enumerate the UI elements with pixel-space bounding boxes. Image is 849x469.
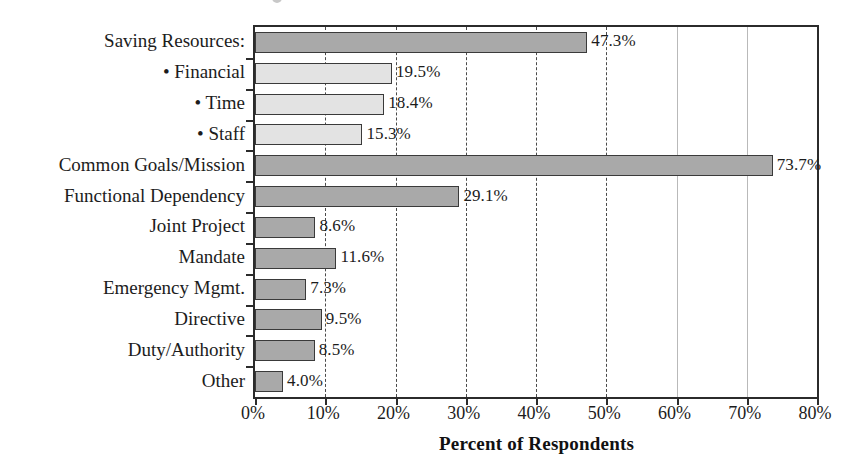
y-tick-3 xyxy=(246,120,255,122)
x-tick-label-30: 30% xyxy=(447,404,480,422)
bar-value-label: 9.5% xyxy=(326,310,362,327)
x-tick-label-40: 40% xyxy=(518,404,551,422)
category-label: • Staff xyxy=(197,124,245,143)
x-tick-label-80: 80% xyxy=(799,404,832,422)
category-label: Joint Project xyxy=(149,216,245,235)
category-label: Saving Resources: xyxy=(104,31,245,50)
bar xyxy=(255,248,336,269)
category-label: Common Goals/Mission xyxy=(59,155,245,174)
x-axis-title-text: Percent of Respondents xyxy=(439,434,634,453)
bar xyxy=(255,124,362,145)
bar-value-label: 11.6% xyxy=(340,248,384,265)
category-label: • Financial xyxy=(163,62,245,81)
bar xyxy=(255,309,322,330)
category-label: Directive xyxy=(174,309,245,328)
x-tick-label-0: 0% xyxy=(241,404,265,422)
y-tick-5 xyxy=(246,181,255,183)
bar-value-label: 19.5% xyxy=(396,63,440,80)
y-tick-4 xyxy=(246,150,255,152)
x-tick-label-60: 60% xyxy=(658,404,691,422)
category-label: Other xyxy=(202,371,245,390)
bar-value-label: 7.3% xyxy=(310,279,346,296)
gridline-60 xyxy=(677,27,678,397)
gridline-20 xyxy=(396,27,397,397)
y-tick-9 xyxy=(246,305,255,307)
bar-value-label: 8.6% xyxy=(319,217,355,234)
category-label: Duty/Authority xyxy=(128,340,245,359)
x-tick-label-70: 70% xyxy=(728,404,761,422)
bar-value-label: 47.3% xyxy=(591,32,635,49)
bar xyxy=(255,94,384,115)
x-tick-label-10: 10% xyxy=(307,404,340,422)
category-label: • Time xyxy=(195,93,246,112)
y-tick-11 xyxy=(246,366,255,368)
gridline-70 xyxy=(747,27,748,397)
y-tick-8 xyxy=(246,274,255,276)
bar-value-label: 18.4% xyxy=(388,94,432,111)
bar-value-label: 29.1% xyxy=(463,187,507,204)
bar xyxy=(255,371,283,392)
category-label: Functional Dependency xyxy=(64,186,245,205)
y-tick-10 xyxy=(246,335,255,337)
gridline-50 xyxy=(606,27,607,397)
title-artifact xyxy=(272,0,282,3)
bar xyxy=(255,32,587,53)
bar-value-label: 8.5% xyxy=(319,341,355,358)
y-tick-2 xyxy=(246,89,255,91)
bar xyxy=(255,155,773,176)
gridline-30 xyxy=(466,27,467,397)
bar-value-label: 4.0% xyxy=(287,372,323,389)
bar-value-label: 73.7% xyxy=(777,156,821,173)
y-tick-1 xyxy=(246,58,255,60)
bar-value-label: 15.3% xyxy=(366,125,410,142)
bar xyxy=(255,186,459,207)
bar xyxy=(255,217,315,238)
y-tick-7 xyxy=(246,243,255,245)
bar xyxy=(255,340,315,361)
x-tick-label-50: 50% xyxy=(588,404,621,422)
y-tick-6 xyxy=(246,212,255,214)
category-label: Emergency Mgmt. xyxy=(103,278,245,297)
bar xyxy=(255,63,392,84)
bar xyxy=(255,279,306,300)
bar-chart: Saving Resources:• Financial• Time• Staf… xyxy=(0,0,849,469)
x-tick-label-20: 20% xyxy=(377,404,410,422)
gridline-40 xyxy=(536,27,537,397)
category-label: Mandate xyxy=(179,247,245,266)
x-axis-title: Percent of Respondents xyxy=(0,434,849,453)
